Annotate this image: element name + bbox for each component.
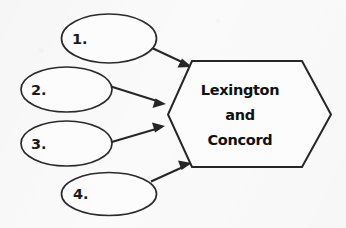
connector-arrow-4: [151, 161, 192, 182]
node-4-label: 4.: [73, 186, 89, 202]
center-node-line-2: and: [225, 107, 255, 123]
center-node-line-1: Lexington: [201, 82, 280, 98]
input-node-1[interactable]: 1.: [62, 14, 157, 63]
input-node-3[interactable]: 3.: [21, 121, 112, 166]
center-node[interactable]: Lexington and Concord: [168, 61, 331, 167]
arrow-3-line: [110, 129, 156, 143]
connector-arrow-1: [151, 48, 192, 68]
arrow-4-line: [151, 167, 183, 182]
node-3-label: 3.: [31, 136, 47, 152]
center-node-line-3: Concord: [208, 132, 273, 148]
connector-arrow-3: [110, 123, 165, 143]
connector-arrow-2: [111, 87, 166, 109]
arrow-2-line: [111, 87, 157, 102]
diagram-svg: 1. 2. 3. 4. Lexington and Concord: [0, 0, 346, 228]
arrow-3-head: [152, 123, 165, 133]
arrow-1-line: [151, 48, 183, 63]
input-node-2[interactable]: 2.: [21, 67, 112, 112]
input-node-4[interactable]: 4.: [62, 173, 157, 216]
diagram-canvas: 1. 2. 3. 4. Lexington and Concord: [0, 0, 346, 228]
node-1-label: 1.: [72, 31, 88, 47]
node-2-label: 2.: [31, 82, 47, 98]
